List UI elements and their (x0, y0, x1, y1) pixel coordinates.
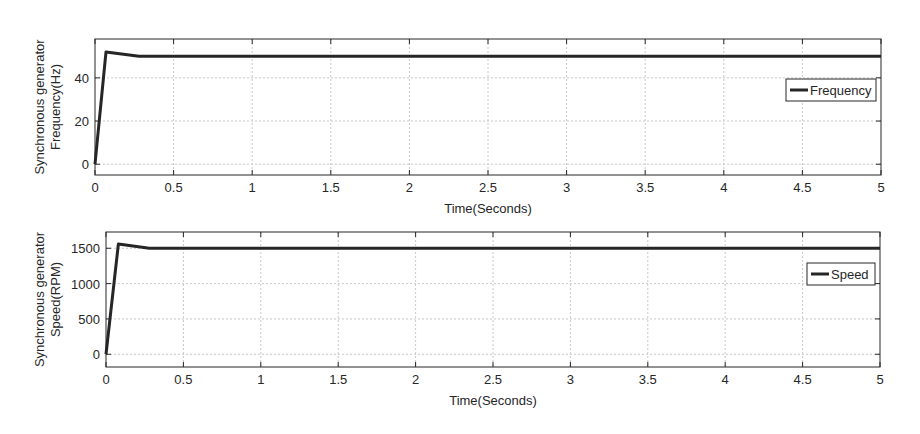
x-axis-label: Time(Seconds) (444, 201, 532, 216)
x-tick-label: 3 (563, 180, 570, 195)
x-tick-label: 3.5 (639, 372, 657, 387)
x-tick-label: 0.5 (165, 180, 183, 195)
legend: Speed (807, 263, 875, 285)
figure: 00.511.522.533.544.5502040Time(Seconds)S… (0, 0, 920, 434)
x-tick-label: 0 (102, 372, 109, 387)
x-tick-label: 1.5 (329, 372, 347, 387)
y-tick-label: 40 (75, 71, 89, 86)
legend: Frequency (786, 79, 876, 101)
y-tick-label: 500 (78, 312, 100, 327)
y-axis-label: Synchronous generatorFrequency(Hz) (32, 39, 63, 175)
x-tick-label: 4.5 (794, 372, 812, 387)
x-tick-label: 4.5 (793, 180, 811, 195)
x-tick-label: 5 (876, 372, 883, 387)
subplot-1: 00.511.522.533.544.5502040Time(Seconds)S… (32, 39, 885, 216)
y-tick-label: 0 (93, 347, 100, 362)
y-tick-label: 20 (75, 114, 89, 129)
y-tick-label: 0 (82, 157, 89, 172)
x-tick-label: 5 (877, 180, 884, 195)
y-axis-label: Synchronous generatorSpeed(RPM) (32, 231, 63, 367)
subplot-2: 00.511.522.533.544.55050010001500Time(Se… (32, 231, 884, 408)
x-tick-label: 4 (720, 180, 727, 195)
x-tick-label: 3.5 (636, 180, 654, 195)
x-tick-label: 4 (722, 372, 729, 387)
legend-label: Frequency (810, 83, 872, 98)
x-tick-label: 2.5 (484, 372, 502, 387)
x-tick-label: 0 (91, 180, 98, 195)
x-tick-label: 2.5 (479, 180, 497, 195)
x-tick-label: 1 (257, 372, 264, 387)
x-tick-label: 2 (412, 372, 419, 387)
y-tick-label: 1500 (71, 241, 100, 256)
x-tick-label: 1.5 (322, 180, 340, 195)
y-tick-label: 1000 (71, 277, 100, 292)
x-tick-label: 2 (406, 180, 413, 195)
x-tick-label: 3 (567, 372, 574, 387)
legend-label: Speed (831, 267, 869, 282)
x-axis-label: Time(Seconds) (449, 393, 537, 408)
x-tick-label: 0.5 (174, 372, 192, 387)
x-tick-label: 1 (249, 180, 256, 195)
